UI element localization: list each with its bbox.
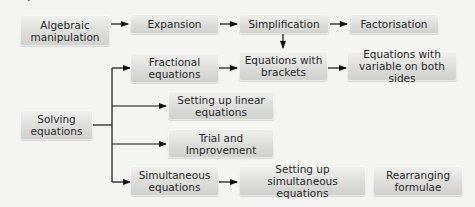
node-trial-and-improvement: Trial and Improvement <box>168 129 274 158</box>
node-fractional-equations: Fractional equations <box>130 53 219 83</box>
node-solving-equations: Solving equations <box>20 110 93 140</box>
topic-flow-diagram: g Algebraic manipulation Expansio <box>0 0 475 207</box>
node-setting-up-linear-equations: Setting up linear equations <box>168 91 274 120</box>
node-rearranging-formulae: Rearranging formulae <box>373 166 463 196</box>
node-equations-with-brackets: Equations with brackets <box>239 51 328 81</box>
node-factorisation: Factorisation <box>349 14 439 34</box>
node-equations-variable-both-sides: Equations with variable on both sides <box>347 51 457 81</box>
node-setting-up-simultaneous-equations: Setting up simultaneous equations <box>239 166 366 196</box>
node-expansion: Expansion <box>130 14 219 34</box>
node-simultaneous-equations: Simultaneous equations <box>130 166 219 196</box>
node-simplification: Simplification <box>239 14 329 34</box>
node-algebraic-manipulation: Algebraic manipulation <box>20 15 110 46</box>
